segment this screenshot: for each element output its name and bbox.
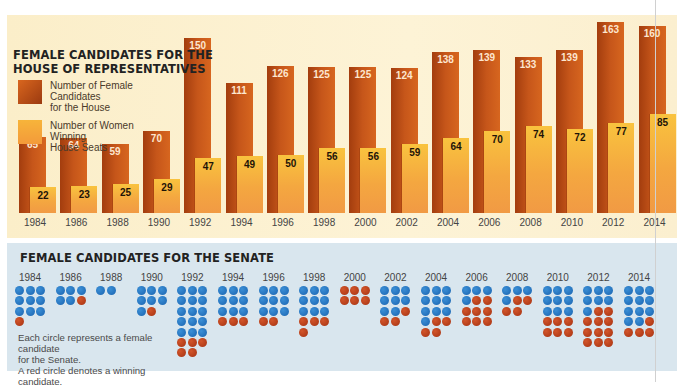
candidate-dot [107, 286, 116, 295]
candidate-dot [604, 296, 613, 305]
bar-winners: 56 [360, 148, 386, 214]
candidate-dot [310, 296, 319, 305]
x-axis-tick-label: 2010 [552, 217, 592, 228]
candidate-dot [380, 307, 389, 316]
bar-value-label: 111 [226, 85, 253, 96]
note-line: A red circle denotes a winning candidate… [18, 365, 188, 387]
note-line: Each circle represents a female candidat… [18, 332, 188, 354]
bar-group-2012: 16377 [597, 0, 637, 213]
candidate-dot [635, 286, 644, 295]
candidate-dot [198, 328, 207, 337]
bar-winners: 70 [484, 131, 510, 213]
winning-candidate-dot [361, 286, 370, 295]
candidate-dot [624, 307, 633, 316]
candidate-dot [391, 307, 400, 316]
candidate-dot [158, 286, 167, 295]
x-axis-tick-label: 1994 [222, 217, 262, 228]
x-axis-tick-label: 1988 [98, 217, 138, 228]
legend-item-winners: Number of Women Winning House Seats [18, 120, 170, 153]
senate-dot-group-1984 [15, 286, 49, 328]
winning-candidate-dot [432, 317, 441, 326]
bar-group-2014: 16085 [639, 0, 679, 213]
candidate-dot [280, 296, 289, 305]
bar-value-label: 74 [526, 129, 552, 140]
winning-candidate-dot [472, 317, 481, 326]
candidate-dot [229, 286, 238, 295]
candidate-dot [259, 286, 268, 295]
bar-value-label: 133 [515, 59, 542, 70]
winning-candidate-dot [340, 296, 349, 305]
bar-winners: 22 [30, 187, 56, 213]
candidate-dot [320, 307, 329, 316]
senate-dot-group-2012 [583, 286, 617, 348]
legend-label-line: Number of Women Winning [50, 120, 170, 142]
x-axis-tick-label: 1998 [304, 217, 344, 228]
winning-candidate-dot [594, 328, 603, 337]
candidate-dot [26, 296, 35, 305]
winning-candidate-dot [583, 317, 592, 326]
candidate-dot [188, 286, 197, 295]
candidate-dot [564, 296, 573, 305]
candidate-dot [147, 286, 156, 295]
winning-candidate-dot [15, 317, 24, 326]
bar-value-label: 125 [349, 69, 376, 80]
winning-candidate-dot [310, 317, 319, 326]
candidate-dot [177, 307, 186, 316]
legend-swatch-candidates [18, 80, 42, 104]
note-line: for the Senate. [18, 354, 188, 365]
candidate-dot [594, 286, 603, 295]
candidate-dot [77, 286, 86, 295]
candidate-dot [198, 296, 207, 305]
candidate-dot [15, 286, 24, 295]
winning-candidate-dot [543, 328, 552, 337]
candidate-dot [442, 286, 451, 295]
senate-year-label: 2002 [375, 272, 415, 283]
bar-winners: 59 [402, 144, 428, 213]
candidate-dot [513, 286, 522, 295]
candidate-dot [462, 296, 471, 305]
candidate-dot [624, 296, 633, 305]
senate-year-label: 1986 [51, 272, 91, 283]
senate-chart-panel: FEMALE CANDIDATES FOR THE SENATE Each ci… [7, 243, 677, 371]
legend-item-candidates: Number of Female Candidates for the Hous… [18, 80, 170, 113]
bar-value-label: 23 [71, 189, 97, 200]
winning-candidate-dot [604, 328, 613, 337]
senate-year-label: 1988 [91, 272, 131, 283]
winning-candidate-dot [188, 338, 197, 347]
bar-value-label: 64 [443, 141, 469, 152]
candidate-dot [177, 286, 186, 295]
candidate-dot [543, 307, 552, 316]
winning-candidate-dot [594, 338, 603, 347]
x-axis-tick-label: 1986 [56, 217, 96, 228]
winning-candidate-dot [239, 317, 248, 326]
winning-candidate-dot [188, 348, 197, 357]
winning-candidate-dot [177, 348, 186, 357]
candidate-dot [502, 296, 511, 305]
candidate-dot [137, 296, 146, 305]
x-axis-tick-label: 1996 [263, 217, 303, 228]
candidate-dot [421, 296, 430, 305]
bar-value-label: 70 [484, 134, 510, 145]
bar-winners: 74 [526, 126, 552, 213]
bar-value-label: 125 [308, 69, 335, 80]
senate-year-label: 2006 [457, 272, 497, 283]
winning-candidate-dot [350, 286, 359, 295]
page-divider-line [655, 0, 656, 382]
senate-dot-group-2002 [380, 286, 414, 328]
winning-candidate-dot [401, 307, 410, 316]
candidate-dot [259, 296, 268, 305]
senate-dot-group-1998 [299, 286, 333, 338]
house-title-line2: HOUSE OF REPRESENTATIVES [13, 62, 213, 76]
winning-candidate-dot [645, 317, 654, 326]
senate-dot-group-1988 [96, 286, 130, 296]
winning-candidate-dot [432, 328, 441, 337]
candidate-dot [15, 307, 24, 316]
candidate-dot [583, 296, 592, 305]
winning-candidate-dot [229, 317, 238, 326]
candidate-dot [391, 286, 400, 295]
senate-chart-title: FEMALE CANDIDATES FOR THE SENATE [20, 251, 274, 265]
candidate-dot [624, 317, 633, 326]
bar-value-label: 139 [556, 52, 583, 63]
bar-winners: 50 [278, 155, 304, 213]
bar-value-label: 56 [319, 151, 345, 162]
